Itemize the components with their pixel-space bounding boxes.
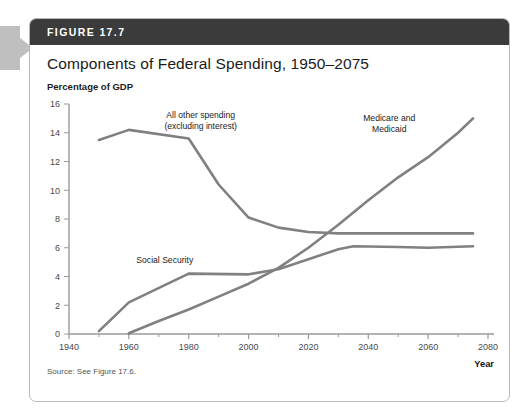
x-tick-label: 1940 [59,342,79,352]
y-tick-label: 0 [55,329,60,339]
y-tick-label: 4 [55,272,60,282]
y-tick-label: 12 [50,157,60,167]
line-chart: 0246810121416194019601980200020202040206… [30,19,510,402]
series-label-2: Medicare and [363,113,415,123]
x-tick-label: 2060 [418,342,438,352]
series-label-0: (excluding interest) [164,121,237,131]
x-tick-label: 1980 [179,342,199,352]
y-tick-label: 10 [50,186,60,196]
series-line-2 [129,118,473,333]
y-tick-label: 8 [55,214,60,224]
series-label-2: Medicaid [372,124,407,134]
y-tick-label: 14 [50,128,60,138]
series-line-0 [99,130,473,234]
series-label-0: All other spending [166,110,235,120]
x-tick-label: 2000 [239,342,259,352]
y-tick-label: 6 [55,243,60,253]
y-tick-label: 16 [50,99,60,109]
y-tick-label: 2 [55,301,60,311]
series-label-1: Social Security [136,255,194,265]
x-tick-label: 2020 [298,342,318,352]
x-tick-label: 2040 [358,342,378,352]
x-tick-label: 2080 [478,342,498,352]
x-tick-label: 1960 [119,342,139,352]
source-note: Source: See Figure 17.6. [47,367,136,376]
figure-box: FIGURE 17.7 Components of Federal Spendi… [29,18,510,402]
x-axis-title: Year [474,359,494,369]
